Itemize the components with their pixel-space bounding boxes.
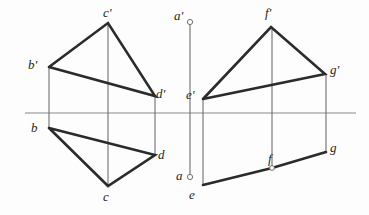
front-view-triangle-efg xyxy=(203,27,325,99)
vertex-label-f: f xyxy=(268,152,272,165)
vertex-label-f-prime: f' xyxy=(265,6,271,19)
vertex-label-b: b xyxy=(31,121,38,134)
vertex-label-d: d xyxy=(158,148,165,161)
top-view-line-efg xyxy=(203,152,326,185)
top-view-triangle-bcd xyxy=(49,128,155,186)
vertex-label-c-prime: c' xyxy=(103,6,112,19)
vertex-label-e-prime: e' xyxy=(186,88,195,101)
vertex-label-d-prime: d' xyxy=(156,87,165,100)
vertex-label-b-prime: b' xyxy=(28,58,37,71)
axis-endpoint-marker-a xyxy=(187,174,192,179)
vertex-label-g: g xyxy=(330,141,337,154)
point-marker-f xyxy=(270,166,275,171)
technical-drawing-canvas: b'c'd'bcda'ae'f'g'efg xyxy=(0,0,369,215)
front-view-triangle-bcd xyxy=(49,23,155,96)
vertex-label-a-prime: a' xyxy=(174,9,183,22)
vertex-label-a: a xyxy=(176,169,183,182)
projector-line-group xyxy=(49,23,326,186)
vertex-label-c: c xyxy=(103,190,109,203)
vertex-label-e: e xyxy=(189,188,195,201)
vertex-label-g-prime: g' xyxy=(330,63,339,76)
axis-endpoint-marker-a-prime xyxy=(187,19,192,24)
projection-drawing-svg xyxy=(0,0,369,215)
object-outline-group xyxy=(49,23,326,186)
point-marker-group xyxy=(187,19,274,179)
